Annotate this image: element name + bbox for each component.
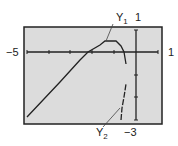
xmin-label: −5: [6, 47, 19, 58]
ymax-label: 1: [135, 12, 141, 23]
y2-label: Y2: [96, 127, 108, 141]
graph-window: [24, 27, 162, 124]
graph: [0, 0, 178, 146]
xmax-label: 1: [168, 47, 174, 58]
ymin-label: −3: [124, 127, 137, 138]
y1-label: Y1: [116, 12, 128, 26]
